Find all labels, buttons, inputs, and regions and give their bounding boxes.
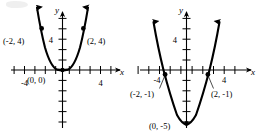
point-label-vertex: (0, -5) — [149, 121, 170, 131]
point-label-2-4: (2, 4) — [87, 36, 106, 46]
data-point-origin — [60, 68, 64, 72]
y-tick-label-4: 4 — [49, 35, 54, 45]
chart-panel-right: y x 4 -4 4 (-2, -1) (2, -1) (0, -5) — [129, 0, 258, 132]
y-tick-label-4: 4 — [173, 35, 178, 45]
point-label-neg2-neg1: (-2, -1) — [130, 89, 154, 99]
data-point-neg2-neg1 — [163, 72, 168, 77]
graph-right-svg: y x 4 -4 4 (-2, -1) (2, -1) (0, -5) — [129, 0, 258, 132]
x-tick-label-neg4: -4 — [153, 75, 161, 85]
axes-right — [140, 12, 251, 128]
chart-panel-left: y x 4 -4 4 (-2, 4) (2, 4) (0, 0) — [0, 0, 129, 132]
x-axis-label: x — [250, 67, 255, 77]
data-point-2-neg1 — [206, 72, 211, 77]
data-point-vertex — [184, 121, 189, 126]
leader-line-right — [209, 77, 214, 89]
y-axis-label: y — [178, 5, 183, 15]
y-axis-label: y — [54, 5, 59, 15]
data-point-neg2-4 — [39, 26, 44, 31]
x-tick-label-4: 4 — [222, 75, 227, 85]
x-tick-label-4: 4 — [98, 78, 103, 88]
point-label-2-neg1: (2, -1) — [211, 89, 232, 99]
graph-left-svg: y x 4 -4 4 (-2, 4) (2, 4) (0, 0) — [0, 0, 129, 132]
data-point-2-4 — [81, 26, 86, 31]
point-label-neg2-4: (-2, 4) — [3, 36, 24, 46]
figure-container: y x 4 -4 4 (-2, 4) (2, 4) (0, 0) — [0, 0, 258, 132]
point-label-origin: (0, 0) — [27, 75, 46, 85]
x-axis-label: x — [119, 67, 124, 77]
